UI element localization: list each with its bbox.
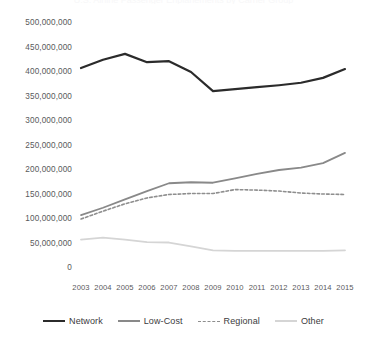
- series-line-network: [81, 54, 345, 91]
- x-axis: 2003200420052006200720082009201020112012…: [0, 283, 367, 297]
- x-tick-label: 2003: [72, 283, 89, 293]
- x-tick-label: 2012: [270, 283, 287, 293]
- legend-label: Network: [69, 316, 103, 326]
- x-tick-label: 2008: [182, 283, 199, 293]
- legend-item-regional[interactable]: Regional: [198, 316, 260, 326]
- series-line-other: [81, 238, 345, 251]
- x-tick-label: 2014: [314, 283, 331, 293]
- x-tick-label: 2010: [226, 283, 243, 293]
- legend-item-other[interactable]: Other: [275, 316, 324, 326]
- x-tick-label: 2015: [336, 283, 353, 293]
- legend-label: Other: [301, 316, 324, 326]
- series-line-regional: [81, 190, 345, 219]
- legend-item-network[interactable]: Network: [43, 316, 103, 326]
- legend-label: Regional: [224, 316, 260, 326]
- x-tick-label: 2011: [249, 283, 266, 293]
- legend-swatch-icon: [198, 321, 220, 322]
- plot-area: [0, 0, 367, 351]
- chart-legend: NetworkLow-CostRegionalOther: [0, 316, 367, 326]
- legend-swatch-icon: [118, 320, 140, 322]
- legend-swatch-icon: [43, 320, 65, 322]
- line-chart: U.S. Airline Passenger Enplanements by C…: [0, 0, 367, 351]
- x-tick-label: 2005: [116, 283, 133, 293]
- x-tick-label: 2013: [292, 283, 309, 293]
- legend-item-low-cost[interactable]: Low-Cost: [118, 316, 183, 326]
- x-tick-label: 2007: [160, 283, 177, 293]
- legend-label: Low-Cost: [144, 316, 183, 326]
- x-tick-label: 2004: [94, 283, 111, 293]
- x-tick-label: 2006: [138, 283, 155, 293]
- x-tick-label: 2009: [204, 283, 221, 293]
- legend-swatch-icon: [275, 320, 297, 322]
- series-line-low-cost: [81, 153, 345, 215]
